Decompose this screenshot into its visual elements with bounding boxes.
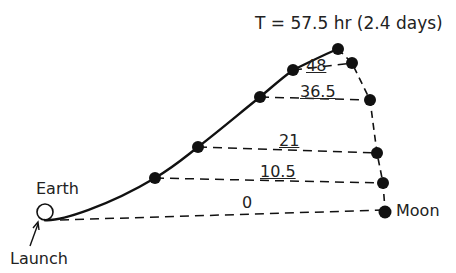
trajectory-diagram: T = 57.5 hr (2.4 days) 48 36.5 21 10.5 0… xyxy=(0,0,456,273)
time-mark-0: 0 xyxy=(242,195,252,211)
time-mark-10-5: 10.5 xyxy=(260,164,296,180)
diagram-graphics xyxy=(0,0,456,273)
earth-label: Earth xyxy=(36,181,79,197)
earth-circle xyxy=(37,204,53,220)
diagram-title: T = 57.5 hr (2.4 days) xyxy=(255,15,443,32)
time-lines xyxy=(60,63,385,220)
time-mark-36-5: 36.5 xyxy=(300,84,336,100)
time-mark-48: 48 xyxy=(306,58,326,74)
time-mark-21: 21 xyxy=(279,133,299,149)
moon-positions xyxy=(346,57,392,219)
launch-label: Launch xyxy=(10,251,68,267)
moon-label: Moon xyxy=(396,203,440,219)
